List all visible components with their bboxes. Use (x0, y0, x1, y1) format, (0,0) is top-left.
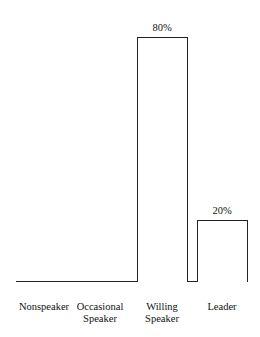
bar-chart: 80% 20% Nonspeaker Occasional Speaker Wi… (0, 0, 260, 337)
value-label-leader: 20% (192, 205, 252, 216)
category-label-nonspeaker: Nonspeaker (12, 301, 76, 313)
category-label-line: Leader (190, 301, 254, 313)
category-label-line: Occasional (68, 301, 132, 313)
category-label-line: Nonspeaker (12, 301, 76, 313)
bar-leader (197, 220, 248, 282)
category-label-line: Speaker (68, 313, 132, 325)
category-label-willing-speaker: Willing Speaker (130, 301, 194, 325)
bar-willing-speaker (137, 37, 188, 282)
value-label-willing-speaker: 80% (132, 22, 192, 33)
category-label-line: Willing (130, 301, 194, 313)
category-label-leader: Leader (190, 301, 254, 313)
category-label-line: Speaker (130, 313, 194, 325)
category-label-occasional-speaker: Occasional Speaker (68, 301, 132, 325)
